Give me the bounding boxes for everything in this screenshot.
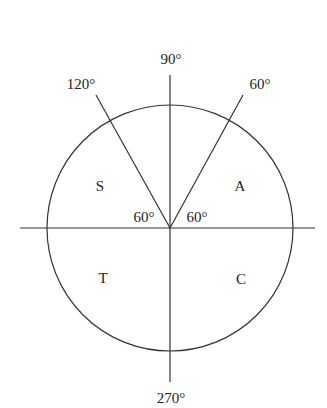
- quadrant-a: A: [235, 178, 246, 194]
- cast-diagram: 90° 270° 120° 60° 60° 60° S A T C: [0, 0, 327, 408]
- quadrant-t: T: [98, 270, 107, 286]
- label-60: 60°: [250, 76, 271, 92]
- angle-label-right: 60°: [187, 209, 208, 225]
- quadrant-c: C: [236, 271, 246, 287]
- label-120: 120°: [67, 76, 96, 92]
- angle-label-left: 60°: [134, 209, 155, 225]
- label-270: 270°: [157, 390, 186, 406]
- quadrant-s: S: [96, 178, 104, 194]
- label-90: 90°: [161, 51, 182, 67]
